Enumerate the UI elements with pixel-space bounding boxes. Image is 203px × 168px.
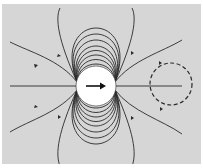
dipole-field-diagram	[0, 0, 203, 168]
